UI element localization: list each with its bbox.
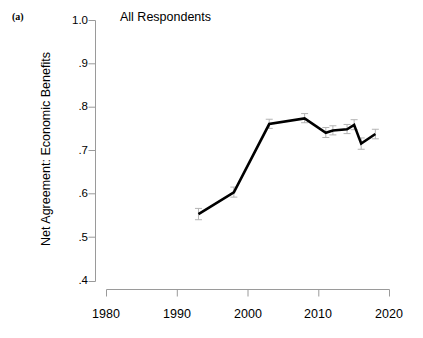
y-axis-ticks xyxy=(89,21,96,282)
error-bars xyxy=(195,114,379,220)
plot-area xyxy=(0,0,423,338)
data-line-all-respondents xyxy=(198,118,375,214)
x-axis-ticks xyxy=(107,290,390,297)
chart-figure: (a) All Respondents Net Agreement: Econo… xyxy=(0,0,423,338)
